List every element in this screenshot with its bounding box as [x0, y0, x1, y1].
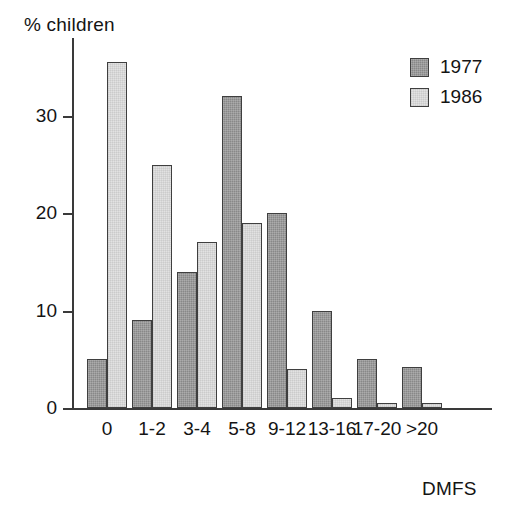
y-tick: 0 — [63, 408, 72, 410]
bar-group — [312, 38, 352, 408]
bar-1986-5-8[interactable] — [242, 223, 262, 408]
bar-1977->20[interactable] — [402, 367, 422, 408]
bar-group — [267, 38, 307, 408]
y-tick-label: 30 — [36, 105, 57, 127]
y-axis-label: % children — [24, 14, 115, 36]
bar-1977-17-20[interactable] — [357, 359, 377, 408]
x-tick-label: 9-12 — [268, 418, 306, 440]
bar-1977-1-2[interactable] — [132, 320, 152, 408]
x-tick-label: 3-4 — [183, 418, 210, 440]
bar-group — [357, 38, 397, 408]
bar-1986-13-16[interactable] — [332, 398, 352, 408]
x-tick-label: >20 — [406, 418, 438, 440]
y-tick: 20 — [63, 213, 72, 215]
bar-1977-9-12[interactable] — [267, 213, 287, 408]
y-tick-label: 10 — [36, 300, 57, 322]
x-axis-label: DMFS — [422, 478, 477, 500]
bar-1986-1-2[interactable] — [152, 165, 172, 408]
legend-item-1986[interactable]: 1986 — [410, 82, 482, 112]
bar-1986-9-12[interactable] — [287, 369, 307, 408]
y-tick-label: 20 — [36, 202, 57, 224]
bar-1977-3-4[interactable] — [177, 272, 197, 408]
x-tick-label: 5-8 — [228, 418, 255, 440]
bar-group — [222, 38, 262, 408]
bar-1986-0[interactable] — [107, 62, 127, 408]
y-axis-line — [72, 38, 74, 409]
legend-swatch-1986 — [410, 88, 429, 107]
bar-chart: % children 0102030 01-23-45-89-1213-1617… — [0, 0, 512, 514]
x-tick-label: 13-16 — [308, 418, 357, 440]
bar-1986->20[interactable] — [422, 403, 442, 408]
bar-1977-5-8[interactable] — [222, 96, 242, 408]
bar-1986-17-20[interactable] — [377, 403, 397, 408]
x-tick-label: 0 — [102, 418, 113, 440]
legend: 19771986 — [410, 52, 482, 112]
y-tick: 10 — [63, 311, 72, 313]
bar-1977-0[interactable] — [87, 359, 107, 408]
x-tick-label: 1-2 — [138, 418, 165, 440]
y-tick: 30 — [63, 116, 72, 118]
legend-swatch-1977 — [410, 58, 429, 77]
legend-label-1986: 1986 — [440, 86, 482, 108]
bar-group — [177, 38, 217, 408]
x-axis-line — [72, 408, 492, 410]
bar-group — [87, 38, 127, 408]
bar-1977-13-16[interactable] — [312, 311, 332, 408]
bar-group — [132, 38, 172, 408]
bar-1986-3-4[interactable] — [197, 242, 217, 408]
x-tick-label: 17-20 — [353, 418, 402, 440]
legend-item-1977[interactable]: 1977 — [410, 52, 482, 82]
y-tick-label: 0 — [46, 397, 57, 419]
legend-label-1977: 1977 — [440, 56, 482, 78]
